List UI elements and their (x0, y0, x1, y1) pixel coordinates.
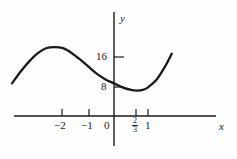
x-tick-label-one: 1 (145, 120, 151, 131)
plot-canvas (0, 0, 237, 159)
fraction-denominator: 3 (132, 125, 138, 134)
y-tick-label-8: 8 (101, 81, 107, 92)
x-tick-label-minus-1: −1 (81, 120, 93, 131)
cubic-curve (12, 47, 172, 90)
fraction-numerator: 2 (132, 117, 138, 125)
y-tick-label-16: 16 (96, 51, 107, 62)
x-tick-label-zero: 0 (104, 120, 110, 131)
x-tick-label-two-thirds: 2 3 (129, 117, 141, 134)
graph-figure: −2 −1 0 2 3 1 8 16 x y (0, 0, 237, 159)
y-axis-label: y (120, 13, 125, 24)
x-tick-label-minus-2: −2 (54, 120, 66, 131)
x-axis-label: x (219, 121, 224, 132)
fraction-two-thirds: 2 3 (132, 117, 138, 134)
